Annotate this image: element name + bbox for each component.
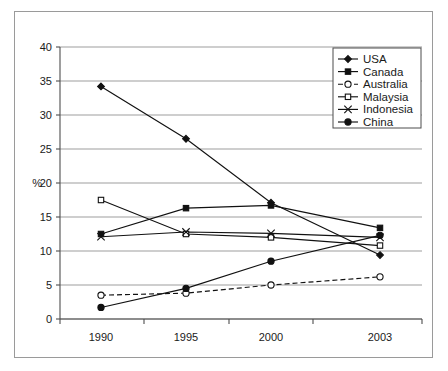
datapoint-canada-1995 [183, 205, 188, 210]
series-line-china [101, 235, 380, 307]
y-axis-title: % [32, 177, 42, 189]
datapoint-usa-1990 [98, 83, 105, 90]
y-axis-ticks-group: 0510152025303540 [40, 41, 60, 325]
datapoint-malaysia-2003 [377, 243, 382, 248]
datapoint-canada-2003 [377, 225, 382, 230]
x-tick-label-1995: 1995 [174, 331, 198, 343]
y-tick-label-5: 5 [46, 279, 52, 291]
legend-swatch-marker-australia [345, 81, 351, 87]
legend-label-australia: Australia [363, 78, 408, 90]
datapoint-australia-2003 [377, 274, 383, 280]
y-tick-label-15: 15 [40, 211, 52, 223]
legend-label-china: China [363, 116, 394, 128]
chart-legend: USACanadaAustraliaMalaysiaIndonesiaChina [333, 48, 421, 128]
datapoint-australia-1990 [98, 292, 104, 298]
line-chart-svg: 0510152025303540 1990199520002003 % USAC… [0, 0, 448, 371]
datapoint-canada-1990 [98, 231, 103, 236]
x-tick-label-2003: 2003 [368, 331, 392, 343]
y-tick-label-10: 10 [40, 245, 52, 257]
y-tick-label-40: 40 [40, 41, 52, 53]
series-line-canada [101, 205, 380, 234]
legend-swatch-marker-malaysia [345, 94, 350, 99]
y-tick-label-25: 25 [40, 143, 52, 155]
datapoint-china-1990 [98, 304, 104, 310]
y-tick-label-30: 30 [40, 109, 52, 121]
datapoint-china-1995 [183, 285, 189, 291]
legend-swatch-marker-canada [345, 69, 350, 74]
datapoint-china-2000 [268, 258, 274, 264]
x-axis-ticks-group: 1990199520002003 [60, 319, 422, 343]
legend-label-canada: Canada [363, 66, 404, 78]
legend-label-usa: USA [363, 53, 387, 65]
datapoint-china-2003 [377, 232, 383, 238]
datapoint-canada-2000 [268, 203, 273, 208]
datapoint-malaysia-1990 [98, 197, 103, 202]
series-line-australia [101, 277, 380, 295]
x-tick-label-1990: 1990 [89, 331, 113, 343]
legend-swatch-marker-china [345, 119, 351, 125]
x-tick-label-2000: 2000 [259, 331, 283, 343]
datapoint-usa-2003 [377, 252, 384, 259]
legend-label-malaysia: Malaysia [363, 91, 409, 103]
datapoint-australia-2000 [268, 282, 274, 288]
chart-figure: 0510152025303540 1990199520002003 % USAC… [0, 0, 448, 371]
y-tick-label-0: 0 [46, 313, 52, 325]
y-tick-label-35: 35 [40, 75, 52, 87]
legend-label-indonesia: Indonesia [363, 103, 413, 115]
chart-plot-area: 0510152025303540 1990199520002003 % USAC… [0, 0, 448, 371]
